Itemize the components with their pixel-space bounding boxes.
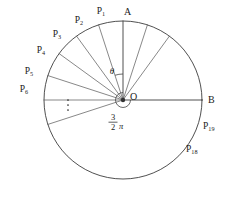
point-label-subscript: 1 xyxy=(102,10,105,17)
circle-sector-diagram: P1P2P3P4P5P6P19P18 AOB θ 3 2 π xyxy=(0,0,225,197)
ellipsis-dot xyxy=(67,104,69,106)
ellipsis-marker xyxy=(67,99,69,111)
point-label-P5: P5 xyxy=(25,66,33,77)
total-angle-fraction: 3 2 π xyxy=(109,112,125,132)
vertex-label-A: A xyxy=(124,6,132,17)
radius-line-P1 xyxy=(99,25,123,100)
radius-line-P2 xyxy=(77,36,123,100)
radius-line-P19 xyxy=(123,25,147,100)
pi-symbol: π xyxy=(119,121,124,131)
figure-container: P1P2P3P4P5P6P19P18 AOB θ 3 2 π xyxy=(0,0,225,197)
radius-line-P3 xyxy=(59,54,123,100)
vertex-label-B: B xyxy=(208,94,215,105)
center-point-marker xyxy=(121,98,125,102)
fraction-numerator: 3 xyxy=(111,112,115,122)
point-label-subscript: 4 xyxy=(42,49,45,56)
theta-label: θ xyxy=(110,66,115,76)
point-label-subscript: 2 xyxy=(80,19,83,26)
point-label-P19: P19 xyxy=(203,121,214,132)
point-label-subscript: 3 xyxy=(58,33,61,40)
point-label-P3: P3 xyxy=(53,29,61,40)
point-label-P6: P6 xyxy=(20,84,28,95)
radius-line-P4 xyxy=(48,76,123,100)
ellipsis-dot xyxy=(67,99,69,101)
point-label-P1: P1 xyxy=(97,6,105,17)
point-label-P2: P2 xyxy=(75,15,83,26)
point-label-subscript: 18 xyxy=(191,148,197,155)
point-label-P4: P4 xyxy=(37,45,45,56)
theta-angle-arc xyxy=(115,74,123,75)
vertex-label-O: O xyxy=(130,91,137,102)
point-label-P18: P18 xyxy=(186,144,197,155)
point-label-subscript: 5 xyxy=(30,70,33,77)
point-label-subscript: 19 xyxy=(208,125,214,132)
point-label-subscript: 6 xyxy=(25,88,28,95)
point-labels-group: P1P2P3P4P5P6P19P18 xyxy=(20,6,215,155)
ellipsis-dot xyxy=(67,109,69,111)
radius-lines-group xyxy=(44,25,169,125)
fraction-denominator: 2 xyxy=(111,122,115,132)
